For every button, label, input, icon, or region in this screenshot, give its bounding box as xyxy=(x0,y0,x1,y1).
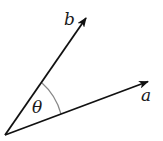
vector-angle-diagram: b a θ xyxy=(0,0,163,141)
vector-a-arrow xyxy=(5,82,148,136)
angle-theta-label: θ xyxy=(32,97,42,117)
vector-a-label: a xyxy=(141,85,151,105)
vector-b-label: b xyxy=(64,9,75,29)
angle-arc xyxy=(42,83,62,115)
vector-b-arrow xyxy=(5,18,86,135)
